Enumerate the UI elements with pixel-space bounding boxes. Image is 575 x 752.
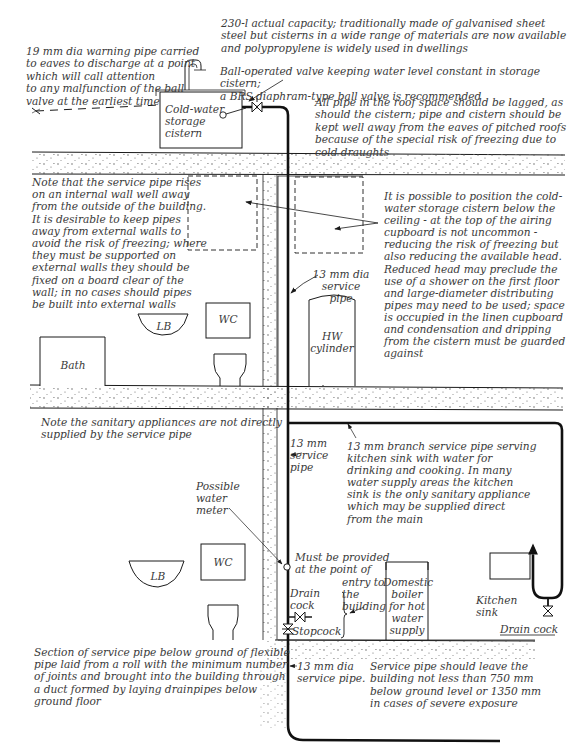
drain-cock-right-icon	[543, 598, 553, 616]
first-floor-slab	[30, 385, 563, 410]
drain-cock-left-icon	[288, 612, 312, 622]
label-bath: Bath	[48, 359, 98, 371]
label-boiler: Domestic boiler for hot water supply	[383, 576, 431, 636]
label-wc-lower: WC	[205, 556, 241, 568]
note-branch-pipe: 13 mm branch service pipe serving kitche…	[347, 440, 536, 525]
label-drain-cock-left: Drain cock	[290, 587, 320, 611]
label-entry-to-building: entry to the building	[342, 576, 386, 612]
label-service-pipe-lower: 13 mm dia service pipe.	[297, 660, 365, 684]
label-stopcock: Stopcock	[292, 625, 341, 637]
label-lb-upper: LB	[154, 320, 174, 332]
note-below-ground: Section of service pipe below ground of …	[34, 646, 290, 707]
label-cistern: Cold-water storage cistern	[165, 103, 224, 139]
label-lb-lower: LB	[148, 570, 168, 582]
label-service-pipe-mid: 13 mm service pipe	[290, 437, 328, 473]
label-service-pipe-upper: 13 mm dia service pipe	[312, 268, 370, 304]
note-cistern-capacity: 230-l actual capacity; traditionally mad…	[221, 17, 566, 54]
ground-floor-slab	[265, 640, 535, 659]
wc-lower-pan	[208, 605, 238, 640]
kitchen-sink-icon	[490, 553, 530, 579]
label-kitchen-sink: Kitchen sink	[476, 594, 517, 618]
label-water-meter: Possible water meter	[196, 480, 240, 516]
wc-upper-pan	[214, 354, 246, 386]
note-warning-pipe: 19 mm dia warning pipe carried to eaves …	[26, 45, 199, 107]
label-must-be-provided: Must be provided at the point of	[295, 551, 390, 575]
water-meter-icon	[284, 564, 290, 570]
label-hw-cylinder: HW cylinder	[310, 330, 354, 354]
note-leave-building: Service pipe should leave the building n…	[370, 660, 541, 709]
note-internal-wall: Note that the service pipe rises on an i…	[32, 176, 207, 310]
note-roof-lagging: All pipe in the roof space should be lag…	[315, 96, 566, 158]
label-drain-cock-right: Drain cock	[500, 623, 558, 635]
label-wc-upper: WC	[210, 313, 246, 325]
note-cistern-position: It is possible to position the cold- wat…	[384, 190, 565, 359]
note-sanitary-appliances: Note the sanitary appliances are not dir…	[41, 416, 282, 441]
